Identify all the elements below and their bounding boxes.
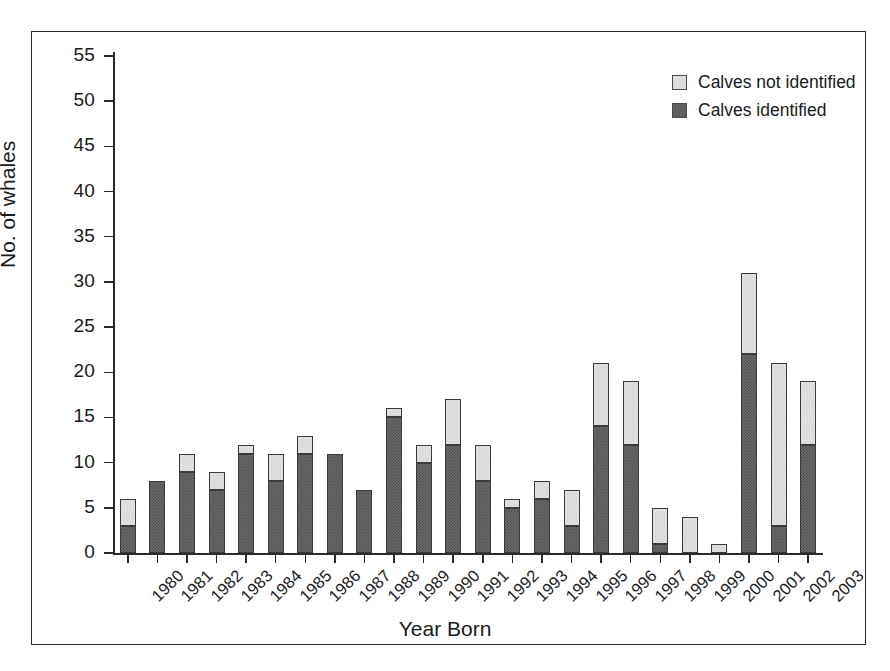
x-tick-mark [541,554,543,563]
x-tick-mark [571,554,573,563]
bar-segment-calves-not-identified [475,445,491,481]
x-tick-mark [719,554,721,563]
figure-root: No. of whales Year Born 0510152025303540… [0,0,890,671]
bar-1999 [682,517,698,553]
bar-1980 [120,499,136,553]
bar-1983 [209,472,225,553]
x-tick-mark [334,554,336,563]
bar-1984 [238,445,254,553]
bar-segment-calves-identified [800,445,816,553]
y-tick-mark [104,462,113,464]
bar-segment-calves-identified [504,508,520,553]
bar-segment-calves-identified [445,445,461,553]
bar-1995 [564,490,580,553]
x-tick-mark [216,554,218,563]
bar-segment-calves-not-identified [238,445,254,454]
bar-segment-calves-not-identified [652,508,668,544]
bar-segment-calves-identified [297,454,313,553]
legend-item-calves-identified: Calves identified [672,100,856,120]
bar-segment-calves-identified [475,481,491,553]
x-tick-mark [186,554,188,563]
y-tick-mark [104,100,113,102]
bar-segment-calves-not-identified [593,363,609,426]
chart-legend: Calves not identified Calves identified [672,72,856,128]
bar-2000 [711,544,727,553]
y-tick-mark [104,326,113,328]
bar-1985 [268,454,284,553]
x-tick-mark [157,554,159,563]
x-tick-mark [660,554,662,563]
y-axis-line [113,52,115,554]
x-tick-mark [512,554,514,563]
y-tick-label: 0 [84,541,95,563]
y-tick-label: 45 [73,134,95,156]
legend-label-calves-identified: Calves identified [698,100,826,121]
x-tick-mark [600,554,602,563]
x-tick-mark [393,554,395,563]
bar-1994 [534,481,550,553]
x-tick-mark [305,554,307,563]
bar-segment-calves-identified [386,417,402,553]
bar-segment-calves-identified [771,526,787,553]
bar-1993 [504,499,520,553]
y-tick-label: 55 [73,44,95,66]
y-tick-label: 15 [73,405,95,427]
bar-2002 [771,363,787,553]
x-tick-mark [127,554,129,563]
bar-segment-calves-identified [238,454,254,553]
x-tick-mark [364,554,366,563]
x-tick-mark [778,554,780,563]
bar-segment-calves-identified [416,463,432,553]
y-tick-label: 25 [73,315,95,337]
y-tick-mark [104,281,113,283]
x-axis-title: Year Born [0,617,890,641]
bar-segment-calves-not-identified [504,499,520,508]
y-tick-mark [104,417,113,419]
bar-1998 [652,508,668,553]
x-tick-mark [275,554,277,563]
bar-1996 [593,363,609,553]
bar-segment-calves-not-identified [416,445,432,463]
bar-segment-calves-identified [741,354,757,553]
bar-segment-calves-not-identified [209,472,225,490]
y-axis-title: No. of whales [0,141,20,268]
bar-segment-calves-not-identified [623,381,639,444]
bar-1992 [475,445,491,553]
bar-segment-calves-not-identified [445,399,461,444]
bar-segment-calves-not-identified [179,454,195,472]
bar-segment-calves-identified [179,472,195,553]
bar-segment-calves-not-identified [386,408,402,417]
bar-2003 [800,381,816,553]
bar-segment-calves-not-identified [534,481,550,499]
y-tick-label: 30 [73,270,95,292]
bar-segment-calves-identified [593,426,609,553]
y-tick-mark [104,507,113,509]
y-tick-label: 35 [73,225,95,247]
bar-1990 [416,445,432,553]
bar-segment-calves-identified [327,454,343,553]
x-tick-mark [689,554,691,563]
bar-1987 [327,454,343,553]
y-tick-mark [104,191,113,193]
bar-segment-calves-identified [268,481,284,553]
y-tick-label: 40 [73,180,95,202]
bar-segment-calves-identified [623,445,639,553]
x-tick-mark [630,554,632,563]
bar-1991 [445,399,461,553]
legend-label-calves-not-identified: Calves not identified [698,72,856,93]
y-tick-mark [104,146,113,148]
bar-segment-calves-not-identified [741,273,757,354]
y-tick-mark [104,552,113,554]
x-tick-mark [748,554,750,563]
x-tick-mark [423,554,425,563]
legend-item-calves-not-identified: Calves not identified [672,72,856,92]
y-tick-label: 50 [73,89,95,111]
y-tick-mark [104,236,113,238]
bar-segment-calves-not-identified [268,454,284,481]
y-tick-label: 10 [73,451,95,473]
y-tick-mark [104,55,113,57]
bar-segment-calves-not-identified [771,363,787,526]
bar-2001 [741,273,757,553]
bar-1986 [297,436,313,553]
bar-1989 [386,408,402,553]
